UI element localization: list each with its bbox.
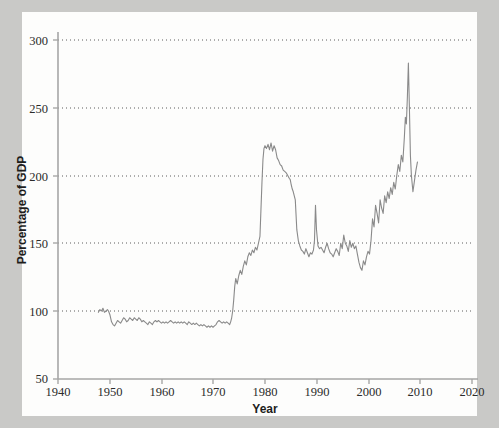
page-top-margin: [0, 0, 499, 12]
x-tick-label: 1960: [150, 385, 175, 399]
y-tick-label: 300: [29, 34, 48, 48]
y-tick-label: 100: [29, 305, 48, 319]
x-tick-label: 1940: [46, 385, 71, 399]
debt-to-gdp-line-chart: 300 250 200 150 100 50 1940 1950 1960 19…: [0, 0, 499, 428]
y-axis-title: Percentage of GDP: [15, 156, 29, 265]
y-tick-label: 250: [29, 102, 48, 116]
grid-lines: [58, 40, 472, 311]
x-tick-label: 1950: [98, 385, 123, 399]
axis-lines: [58, 32, 478, 379]
y-tick-label: 50: [36, 372, 49, 386]
x-tick-label: 1970: [201, 385, 226, 399]
scanned-page: 300 250 200 150 100 50 1940 1950 1960 19…: [0, 0, 499, 428]
y-tick-label: 150: [29, 237, 48, 251]
x-axis-title: Year: [252, 402, 278, 416]
y-tick-labels: 300 250 200 150 100 50: [29, 34, 48, 386]
x-tick-label: 2020: [460, 385, 485, 399]
x-tick-label: 2010: [408, 385, 433, 399]
x-tick-label: 1980: [253, 385, 278, 399]
x-tick-label: 2000: [357, 385, 382, 399]
y-tick-label: 200: [29, 170, 48, 184]
x-tick-labels: 1940 1950 1960 1970 1980 1990 2000 2010 …: [46, 385, 485, 399]
data-series-line: [98, 63, 417, 327]
x-tick-label: 1990: [305, 385, 330, 399]
